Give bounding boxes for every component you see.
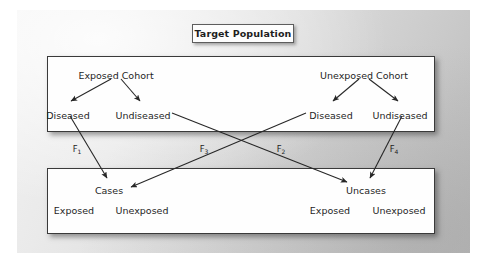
flow-label-f1: F1 [73, 145, 82, 154]
node-unexposed-cohort: Unexposed Cohort [320, 71, 408, 81]
node-exposed-diseased: Diseased [46, 111, 89, 121]
node-uncases: Uncases [346, 186, 386, 196]
flow-label-f4-sub: 4 [395, 148, 399, 155]
flow-label-f4: F4 [390, 145, 399, 154]
node-exposed-undiseased: Undiseased [115, 111, 170, 121]
node-cases-exposed: Exposed [54, 206, 94, 216]
outcome-panel [47, 168, 435, 234]
flow-label-f3-sub: 3 [205, 148, 209, 155]
flow-label-f2-sub: 2 [282, 148, 286, 155]
diagram-canvas: Target Population Exposed Cohort Disease… [0, 0, 485, 271]
node-unexposed-undiseased: Undiseased [372, 111, 427, 121]
target-population-title-label: Target Population [195, 28, 292, 39]
node-exposed-cohort: Exposed Cohort [78, 71, 153, 81]
flow-label-f2: F2 [277, 145, 286, 154]
node-unexposed-diseased: Diseased [309, 111, 352, 121]
target-population-title-box: Target Population [192, 24, 294, 43]
flow-label-f1-sub: 1 [78, 148, 82, 155]
node-cases-unexposed: Unexposed [116, 206, 169, 216]
node-uncases-exposed: Exposed [310, 206, 350, 216]
node-cases: Cases [95, 186, 123, 196]
node-uncases-unexposed: Unexposed [373, 206, 426, 216]
flow-label-f3: F3 [200, 145, 209, 154]
